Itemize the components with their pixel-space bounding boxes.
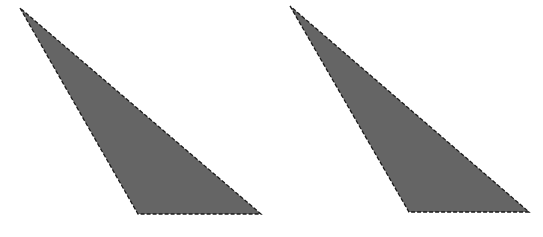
- triangle-right: [290, 6, 529, 212]
- triangle-left: [20, 8, 261, 214]
- diagram-canvas: [0, 0, 543, 237]
